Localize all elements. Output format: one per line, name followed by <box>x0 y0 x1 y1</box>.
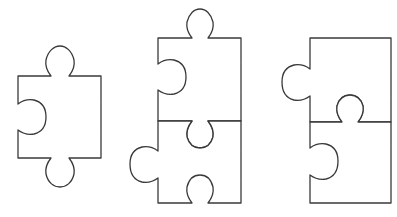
puzzle-diagram <box>0 0 397 217</box>
puzzle-piece-single <box>18 46 101 187</box>
puzzle-piece-pair1-bottom <box>130 121 241 203</box>
puzzle-canvas <box>0 0 397 217</box>
